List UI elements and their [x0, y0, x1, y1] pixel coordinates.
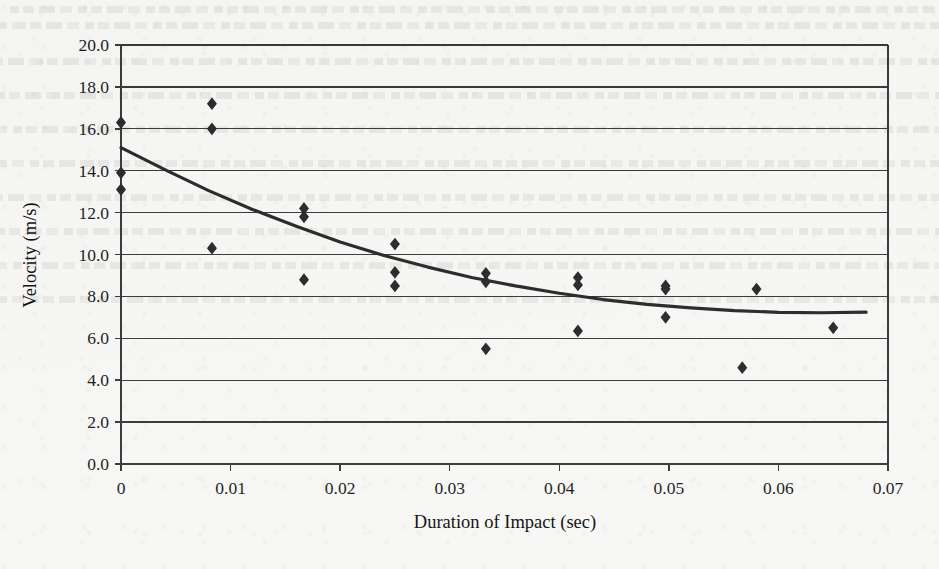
- data-point-marker: [207, 242, 217, 255]
- y-axis-title: Velocity (m/s): [20, 202, 41, 307]
- data-point-marker: [573, 278, 583, 291]
- x-tick-label: 0: [117, 478, 126, 498]
- gridlines-group: [121, 45, 888, 464]
- y-tick-label: 14.0: [78, 161, 109, 181]
- x-tick-label: 0.04: [544, 478, 575, 498]
- x-axis-tick-labels: 00.010.020.030.040.050.060.07: [117, 478, 904, 498]
- y-tick-label: 10.0: [78, 245, 109, 265]
- y-tick-label: 16.0: [78, 119, 109, 139]
- data-point-marker: [481, 275, 491, 288]
- y-tick-label: 12.0: [78, 203, 109, 223]
- data-point-marker: [481, 342, 491, 355]
- x-tick-label: 0.02: [325, 478, 356, 498]
- data-point-marker: [390, 238, 400, 251]
- data-point-marker: [390, 266, 400, 279]
- data-point-marker: [207, 122, 217, 135]
- y-tick-label: 20.0: [78, 35, 109, 55]
- y-axis-tick-labels: 0.02.04.06.08.010.012.014.016.018.020.0: [78, 35, 109, 474]
- data-point-marker: [116, 116, 126, 129]
- x-axis-title: Duration of Impact (sec): [414, 512, 596, 533]
- data-point-marker: [828, 321, 838, 334]
- y-axis-ticks: [115, 45, 121, 464]
- y-tick-label: 0.0: [87, 454, 109, 474]
- data-point-marker: [116, 166, 126, 179]
- x-tick-label: 0.06: [763, 478, 794, 498]
- data-point-marker: [737, 361, 747, 374]
- y-tick-label: 6.0: [87, 328, 109, 348]
- x-tick-label: 0.07: [873, 478, 904, 498]
- data-point-marker: [752, 283, 762, 296]
- y-tick-label: 2.0: [87, 412, 109, 432]
- data-point-marker: [661, 311, 671, 324]
- chart-canvas: 0.02.04.06.08.010.012.014.016.018.020.0 …: [0, 0, 939, 569]
- data-point-marker: [207, 97, 217, 110]
- y-tick-label: 8.0: [87, 286, 109, 306]
- x-tick-label: 0.05: [654, 478, 685, 498]
- data-points-group: [116, 97, 838, 374]
- data-point-marker: [299, 273, 309, 286]
- data-point-marker: [573, 325, 583, 338]
- x-tick-label: 0.01: [215, 478, 246, 498]
- x-tick-label: 0.03: [434, 478, 465, 498]
- data-point-marker: [116, 183, 126, 196]
- velocity-vs-duration-chart: 0.02.04.06.08.010.012.014.016.018.020.0 …: [0, 0, 939, 569]
- y-tick-label: 4.0: [87, 370, 109, 390]
- x-axis-ticks: [121, 464, 888, 471]
- y-tick-label: 18.0: [78, 77, 109, 97]
- data-point-marker: [390, 280, 400, 293]
